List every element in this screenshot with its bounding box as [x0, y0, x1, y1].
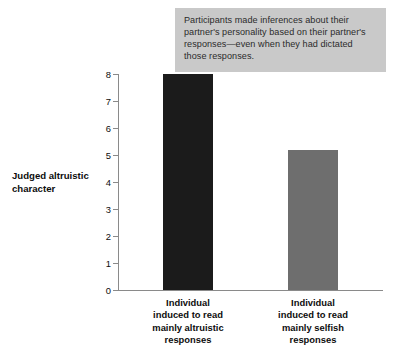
x-axis-line — [118, 290, 383, 291]
x-axis-category-label: Individual induced to read mainly altrui… — [130, 297, 246, 347]
y-axis-tick — [113, 290, 118, 291]
bar-chart-figure: Participants made inferences about their… — [0, 0, 395, 352]
bar — [163, 74, 213, 290]
bars-layer — [0, 0, 395, 290]
x-axis-category-label: Individual induced to read mainly selfis… — [255, 297, 371, 347]
bar — [288, 150, 338, 290]
